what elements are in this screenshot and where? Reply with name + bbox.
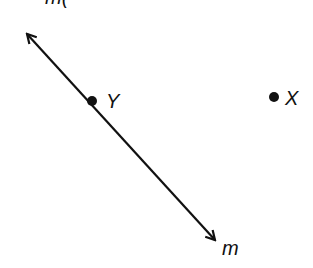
point-y-dot — [87, 96, 97, 106]
point-x-label: X — [284, 87, 299, 109]
line-m-label: m — [222, 237, 239, 259]
line-m — [27, 34, 215, 240]
point-y-label: Y — [106, 90, 121, 112]
point-x-dot — [269, 92, 279, 102]
geometry-diagram: m( Y X m — [0, 0, 313, 268]
cropped-top-label: m( — [45, 0, 71, 8]
